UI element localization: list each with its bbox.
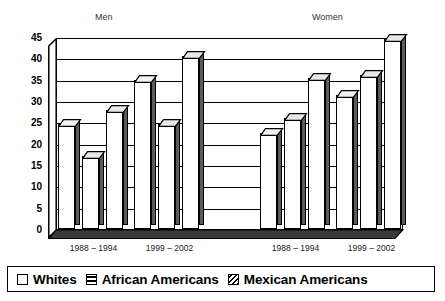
- bar-face: [336, 95, 353, 229]
- bar: [260, 133, 277, 229]
- bar-side: [199, 53, 204, 225]
- y-tick-label: 15: [31, 161, 42, 171]
- legend-label-african-americans: African Americans: [102, 272, 219, 287]
- y-tick-label: 25: [31, 118, 42, 128]
- plot-floor: [48, 229, 403, 239]
- bar-side: [151, 77, 156, 225]
- y-tick-label: 0: [36, 225, 42, 235]
- bar-face: [182, 56, 199, 229]
- bar: [58, 124, 75, 229]
- bar-side: [99, 153, 104, 225]
- y-tick-label: 5: [36, 204, 42, 214]
- gridline: [56, 81, 403, 82]
- bar-side: [301, 115, 306, 225]
- bar-side: [277, 130, 282, 225]
- y-tick-label: 30: [31, 97, 42, 107]
- y-tick-label: 45: [31, 33, 42, 43]
- bar-side: [175, 121, 180, 225]
- bar-side: [353, 92, 358, 225]
- bar: [106, 110, 123, 229]
- x-axis-label: 1988 – 1994: [54, 243, 134, 253]
- y-tick-label: 40: [31, 54, 42, 64]
- bar-face: [284, 118, 301, 229]
- bar-top: [384, 34, 406, 40]
- x-axis-label: 1999 – 2002: [332, 243, 412, 253]
- bar-face: [82, 156, 99, 229]
- bar: [308, 78, 325, 229]
- bar-face: [260, 133, 277, 229]
- bar: [336, 95, 353, 229]
- bar-top: [58, 119, 80, 125]
- bar-face: [360, 75, 377, 229]
- bar: [384, 39, 401, 229]
- legend-swatch-african-americans: [86, 274, 97, 285]
- legend-item-african-americans: African Americans: [86, 272, 219, 287]
- x-axis-label: 1999 – 2002: [130, 243, 210, 253]
- y-axis: 051015202530354045: [16, 38, 42, 238]
- y-tick-label: 20: [31, 140, 42, 150]
- y-tick-label: 35: [31, 76, 42, 86]
- gridline: [56, 38, 403, 39]
- bar-top: [260, 128, 282, 134]
- bar: [360, 75, 377, 229]
- y-tick-label: 10: [31, 182, 42, 192]
- bar-face: [308, 78, 325, 229]
- bar-face: [134, 80, 151, 229]
- legend-swatch-whites: [17, 274, 28, 285]
- legend-item-whites: Whites: [17, 272, 77, 287]
- bar-top: [182, 51, 204, 57]
- bar-face: [384, 39, 401, 229]
- bar: [82, 156, 99, 229]
- bar-top: [158, 119, 180, 125]
- bar: [134, 80, 151, 229]
- panel-title-women: Women: [312, 12, 343, 22]
- bar-top: [336, 90, 358, 96]
- bar-top: [284, 113, 306, 119]
- panel-title-men: Men: [95, 12, 113, 22]
- legend-label-mexican-americans: Mexican Americans: [244, 272, 368, 287]
- bar-top: [360, 70, 382, 76]
- bar-top: [308, 73, 330, 79]
- bar-side: [401, 36, 406, 225]
- legend-swatch-mexican-americans: [228, 274, 239, 285]
- plot-area: [48, 38, 403, 238]
- bar: [284, 118, 301, 229]
- bar-side: [377, 72, 382, 225]
- legend-item-mexican-americans: Mexican Americans: [228, 272, 368, 287]
- bar-side: [75, 121, 80, 225]
- chart-legend: Whites African Americans Mexican America…: [7, 266, 435, 292]
- legend-label-whites: Whites: [33, 272, 77, 287]
- gridline: [56, 59, 403, 60]
- bar: [158, 124, 175, 229]
- bar-side: [325, 75, 330, 225]
- bar-chart-figure: Men Women 051015202530354045 1988 – 1994…: [0, 0, 445, 301]
- bar-face: [58, 124, 75, 229]
- bar-top: [134, 75, 156, 81]
- bar-side: [123, 107, 128, 225]
- bar-top: [82, 151, 104, 157]
- bar-face: [106, 110, 123, 229]
- bar-top: [106, 105, 128, 111]
- bar-face: [158, 124, 175, 229]
- x-axis-label: 1988 – 1994: [256, 243, 336, 253]
- bar: [182, 56, 199, 229]
